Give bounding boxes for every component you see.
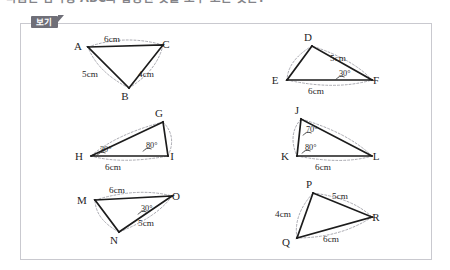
vertex-point [128,87,130,89]
measure-label: 6cm [323,234,339,244]
triangle-abc: ACB6cm5cm4cm [74,34,170,102]
vertex-point [311,45,313,47]
angle-label: 80° [305,143,316,152]
vertex-label: J [295,104,300,116]
triangle-ghi: GHI6cm30°80° [75,107,174,172]
measure-label: 6cm [109,185,125,195]
triangle-outline [88,45,163,88]
measure-label: 6cm [104,34,120,44]
vertex-label: F [373,74,379,86]
measure-label: 5cm [332,191,348,201]
vertex-point [296,237,298,239]
measure-label: 4cm [275,209,291,219]
triangle-jkl: JKL6cm70°80° [281,104,380,172]
vertex-label: B [121,90,128,102]
measure-label: 6cm [308,86,324,96]
vertex-label: D [304,31,312,43]
vertex-point [162,121,164,123]
vertex-point [87,46,89,48]
measure-label: 5cm [330,53,346,63]
measure-label: 6cm [315,162,331,172]
measure-label: 6cm [105,162,121,172]
vertex-label: A [74,40,82,52]
vertex-point [90,155,92,157]
vertex-label: K [281,150,289,162]
vertex-label: M [77,194,87,206]
bogi-badge-label: 보기 [31,16,58,28]
measure-label: 5cm [138,218,154,228]
vertex-label: L [373,150,380,162]
angle-label: 80° [146,141,157,150]
triangle-mno: MON6cm5cm30° [77,185,180,246]
vertex-point [94,199,96,201]
vertex-label: P [306,178,312,190]
triangle-pqr: PRQ5cm4cm6cm [275,178,380,248]
measure-label: 5cm [82,69,98,79]
angle-label: 30° [339,69,350,78]
measure-label: 4cm [138,69,154,79]
vertex-label: Q [282,236,290,248]
vertex-point [300,118,302,120]
vertex-label: H [75,150,83,162]
triangle-outline [95,196,172,232]
vertex-label: E [272,74,279,86]
vertex-label: R [372,211,380,223]
vertex-label: I [170,150,174,162]
vertex-label: C [162,38,169,50]
vertex-point [118,231,120,233]
triangle-outline [287,46,372,80]
angle-label: 30° [141,204,152,213]
figures-svg: ACB6cm5cm4cmDEF5cm6cm30°GHI6cm30°80°JKL6… [0,0,450,270]
bogi-badge: 보기 [31,15,64,29]
bogi-badge-tail-icon [58,15,64,29]
vertex-label: G [155,107,163,119]
angle-label: 70° [306,125,317,134]
vertex-point [286,79,288,81]
vertex-point [167,155,169,157]
vertex-point [312,192,314,194]
vertex-label: N [110,234,118,246]
triangle-def: DEF5cm6cm30° [272,31,379,96]
vertex-point [296,155,298,157]
vertex-label: O [172,190,180,202]
angle-label: 30° [100,145,111,154]
